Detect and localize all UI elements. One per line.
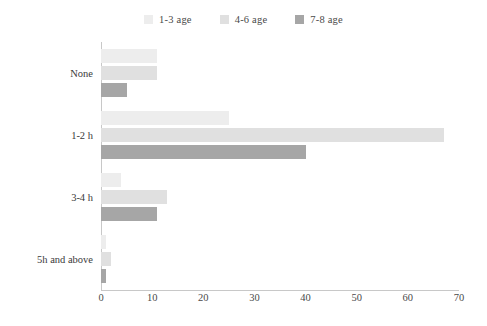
x-tick-40: 40	[300, 292, 311, 303]
legend-swatch-4-6-age-icon	[220, 15, 229, 24]
legend-swatch-1-3-age-icon	[144, 15, 153, 24]
bar-group	[101, 104, 459, 166]
bar	[101, 269, 106, 283]
y-axis-label-none: None	[70, 68, 93, 79]
x-tick-30: 30	[249, 292, 260, 303]
plot-wrapper: None1-2 h3-4 h5h and above 0102030405060…	[0, 40, 487, 326]
bar-group	[101, 42, 459, 104]
legend-item-4-6-age: 4-6 age	[220, 14, 268, 25]
x-tick-0: 0	[98, 292, 103, 303]
bar	[101, 173, 121, 187]
x-tick-20: 20	[198, 292, 209, 303]
y-axis-label-3-4-h: 3-4 h	[71, 192, 93, 203]
y-axis-category-labels: None1-2 h3-4 h5h and above	[0, 42, 101, 290]
bar	[101, 83, 127, 97]
bar	[101, 111, 229, 125]
legend-label-1-3-age: 1-3 age	[159, 14, 192, 25]
legend-label-4-6-age: 4-6 age	[235, 14, 268, 25]
bar-fill	[101, 235, 106, 249]
x-tick-60: 60	[403, 292, 414, 303]
y-axis-label-5h-and-above: 5h and above	[37, 254, 93, 265]
bar-fill	[101, 66, 157, 80]
bar	[101, 66, 157, 80]
bar	[101, 190, 167, 204]
bar	[101, 128, 444, 142]
bar-fill	[101, 83, 127, 97]
bar-fill	[101, 111, 229, 125]
bar-fill	[101, 252, 111, 266]
bar	[101, 207, 157, 221]
bar-fill	[101, 49, 157, 63]
bar-group	[101, 228, 459, 290]
bar	[101, 145, 306, 159]
bar-group	[101, 166, 459, 228]
x-tick-70: 70	[454, 292, 465, 303]
bar	[101, 252, 111, 266]
legend-item-1-3-age: 1-3 age	[144, 14, 192, 25]
x-tick-10: 10	[147, 292, 158, 303]
bar-fill	[101, 269, 106, 283]
x-axis-line	[101, 290, 459, 291]
plot-area	[101, 42, 459, 290]
bar-chart: 1-3 age 4-6 age 7-8 age None1-2 h3-4 h5h…	[0, 0, 487, 326]
legend-item-7-8-age: 7-8 age	[295, 14, 343, 25]
legend-label-7-8-age: 7-8 age	[310, 14, 343, 25]
y-axis-label-1-2-h: 1-2 h	[71, 130, 93, 141]
bar-fill	[101, 145, 306, 159]
bar-fill	[101, 190, 167, 204]
bar	[101, 49, 157, 63]
bar-fill	[101, 207, 157, 221]
bar	[101, 235, 106, 249]
bar-fill	[101, 173, 121, 187]
chart-legend: 1-3 age 4-6 age 7-8 age	[0, 14, 487, 25]
bar-fill	[101, 128, 444, 142]
legend-swatch-7-8-age-icon	[295, 15, 304, 24]
x-axis-tick-labels: 010203040506070	[0, 292, 487, 312]
x-tick-50: 50	[351, 292, 362, 303]
